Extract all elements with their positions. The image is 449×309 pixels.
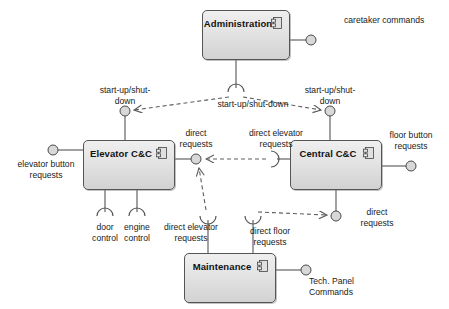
component-administration[interactable]: Administration [202,10,290,60]
component-elevator-cc[interactable]: Elevator C&C [83,140,175,190]
provided-interface-caretaker-commands[interactable] [306,35,317,46]
label-direct-floor-requests: direct floor requests [232,226,308,247]
label-floor-button-requests: floor button requests [373,130,449,151]
label-direct-elevator-requests-maintenance: direct elevator requests [145,222,237,243]
provided-interface-direct-requests-left[interactable] [191,154,202,165]
uml-component-diagram: Administration Elevator C&C Central C&C … [0,0,449,309]
provided-interface-startup-shutdown-right[interactable] [325,106,336,117]
label-direct-requests-right: direct requests [346,207,408,228]
label-direct-elevator-requests-central: direct elevator requests [234,128,318,149]
provided-interface-direct-requests-right[interactable] [331,211,342,222]
label-elevator-button-requests: elevator button requests [0,159,92,180]
label-tech-panel-commands: Tech. Panel Commands [309,276,389,297]
label-direct-requests-left: direct requests [163,128,229,149]
component-icon [257,260,268,272]
label-startup-shutdown-dependency: start-up/shut-down [198,99,308,110]
label-caretaker-commands: caretaker commands [344,15,448,26]
provided-interface-elevator-button-requests[interactable] [48,145,59,156]
provided-interface-floor-button-requests[interactable] [406,161,417,172]
label-startup-shutdown-left: start-up/shut- down [82,85,168,106]
provided-interface-tech-panel-commands[interactable] [301,265,312,276]
component-maintenance[interactable]: Maintenance [184,253,276,303]
component-icon [271,17,282,29]
provided-interface-startup-shutdown-left[interactable] [120,106,131,117]
